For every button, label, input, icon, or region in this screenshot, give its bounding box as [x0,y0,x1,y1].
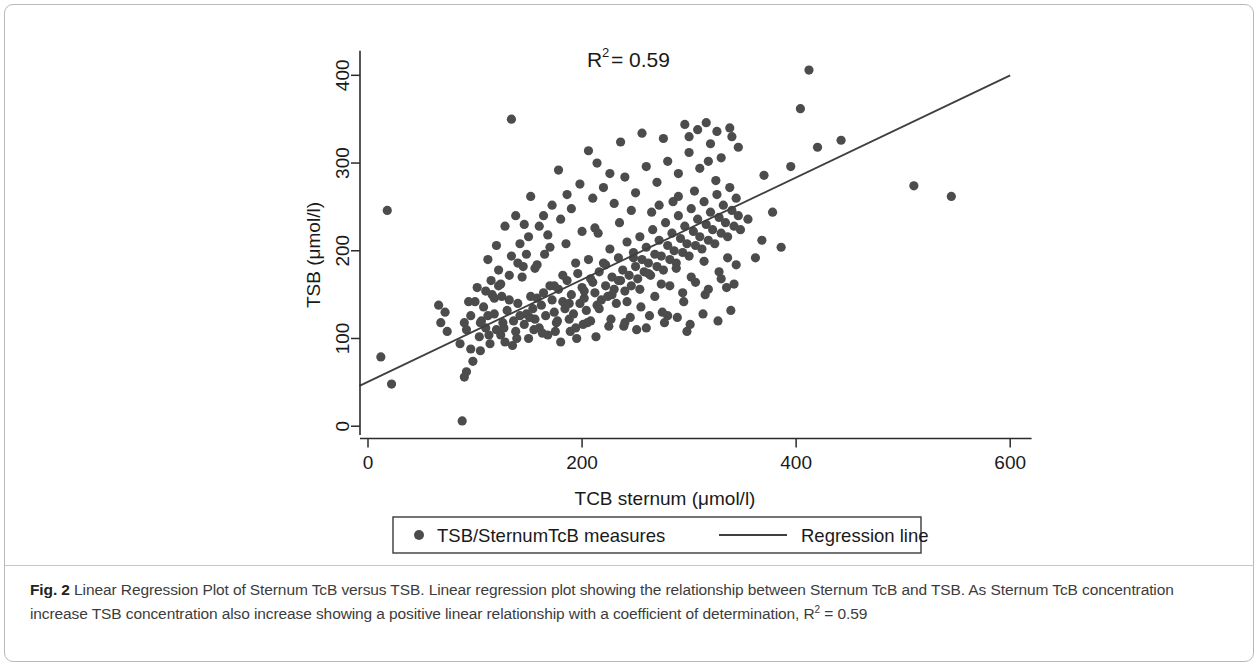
data-point [484,330,493,339]
data-point [547,295,556,304]
data-point [687,204,696,213]
data-point [721,218,730,227]
data-point [659,134,668,143]
data-point [575,179,584,188]
data-point [652,178,661,187]
data-point [541,311,550,320]
data-point [524,232,533,241]
data-point [376,352,385,361]
legend-marker-label: TSB/SternumTcB measures [437,525,665,546]
data-point [614,276,623,285]
y-axis-label: TSB (μmol/l) [303,202,324,308]
data-point [553,316,562,325]
data-point [486,276,495,285]
data-point [511,211,520,220]
data-point [627,281,636,290]
data-point [483,255,492,264]
data-point [647,208,656,217]
data-point [665,281,674,290]
data-point [813,143,822,152]
y-tick-label: 200 [332,235,353,267]
data-point [513,258,522,267]
data-point [496,280,505,289]
data-point [539,211,548,220]
data-point [505,271,514,280]
data-point [947,192,956,201]
data-point [725,123,734,132]
data-point [751,253,760,262]
data-point [655,201,664,210]
data-point [512,334,521,343]
data-point [492,241,501,250]
data-point [625,271,634,280]
data-point [657,280,666,289]
legend-marker-icon [414,530,424,540]
data-point [601,281,610,290]
data-point [622,297,631,306]
data-point [699,257,708,266]
data-point [387,380,396,389]
x-tick-label: 0 [363,452,374,473]
data-point [708,225,717,234]
data-point [551,327,560,336]
data-point [627,206,636,215]
data-point [734,143,743,152]
data-point [777,243,786,252]
data-point [475,332,484,341]
data-point [645,311,654,320]
r-squared-annotation: R 2 = 0.59 [587,45,670,71]
data-point [591,332,600,341]
data-point [607,290,616,299]
data-point [440,308,449,317]
data-point [545,243,554,252]
data-point [515,239,524,248]
y-tick-label: 100 [332,323,353,355]
data-point [455,339,464,348]
data-point [836,136,845,145]
data-point [682,239,691,248]
data-point [460,318,469,327]
x-tick-label: 600 [994,452,1026,473]
data-point [595,304,604,313]
data-point [567,204,576,213]
data-point [759,171,768,180]
data-point [661,218,670,227]
data-point [657,251,666,260]
data-point [674,211,683,220]
data-point [573,269,582,278]
data-point [632,325,641,334]
data-point [436,318,445,327]
data-point [712,190,721,199]
data-point [490,294,499,303]
data-point [490,309,499,318]
figure-caption: Fig. 2 Linear Regression Plot of Sternum… [30,578,1226,625]
data-point [494,265,503,274]
data-point [725,183,734,192]
y-tick-label: 0 [332,421,353,432]
data-point [909,181,918,190]
data-point [684,148,693,157]
data-point [590,223,599,232]
data-point [712,127,721,136]
data-point [697,244,706,253]
data-point [726,306,735,315]
data-point [547,201,556,210]
r-squared-exponent: 2 [602,45,609,60]
data-point [698,309,707,318]
figure-caption-text: Linear Regression Plot of Sternum TcB ve… [30,581,1174,622]
data-point [615,218,624,227]
data-point [680,120,689,129]
data-point [500,222,509,231]
data-point [706,208,715,217]
data-point [678,288,687,297]
data-point [561,239,570,248]
figure-label: Fig. 2 [30,581,70,598]
data-point [723,232,732,241]
plot-area: 01002003004000200400600 TCB sternum (μmo… [5,5,1253,563]
data-point [524,334,533,343]
figure-page: 01002003004000200400600 TCB sternum (μmo… [0,0,1260,668]
data-point [466,344,475,353]
data-point [732,194,741,203]
scatter-plot-svg: 01002003004000200400600 TCB sternum (μmo… [5,5,1253,563]
data-point [719,201,728,210]
